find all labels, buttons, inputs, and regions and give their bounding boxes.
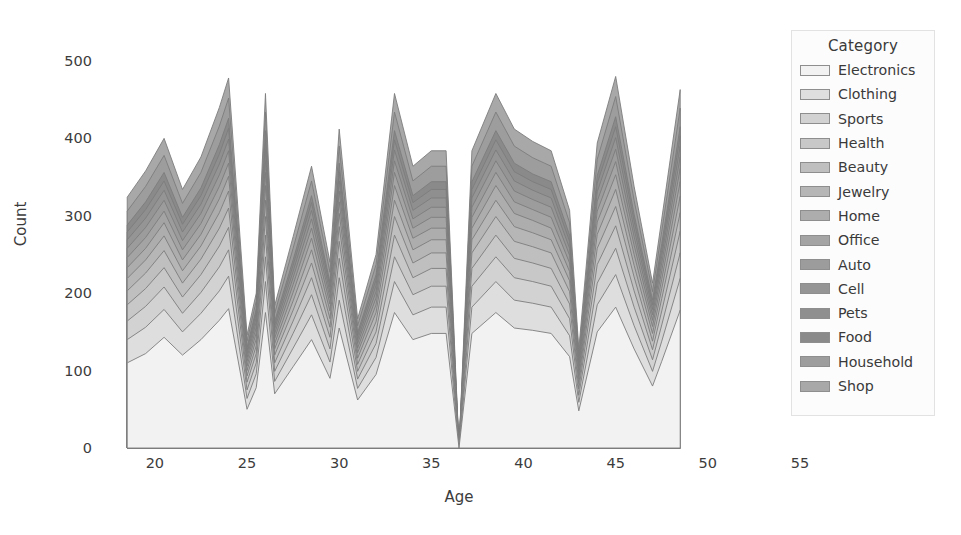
legend-item[interactable]: Shop — [800, 374, 926, 398]
legend-swatch — [800, 210, 830, 221]
x-tick-label: 25 — [238, 455, 256, 471]
legend-item[interactable]: Beauty — [800, 155, 926, 179]
legend-item-label: Beauty — [838, 159, 888, 175]
x-axis-label-text: Age — [444, 488, 473, 506]
legend-swatch — [800, 186, 830, 197]
legend-item[interactable]: Clothing — [800, 82, 926, 106]
legend-item-label: Sports — [838, 111, 883, 127]
legend-item-label: Auto — [838, 257, 871, 273]
x-axis-tick-labels: 2025303540455055 — [0, 455, 961, 481]
legend: Category ElectronicsClothingSportsHealth… — [791, 30, 935, 416]
x-axis-label: Age — [118, 488, 800, 506]
legend-item-label: Electronics — [838, 62, 915, 78]
legend-swatch — [800, 356, 830, 367]
legend-item-label: Health — [838, 135, 885, 151]
legend-item-label: Office — [838, 232, 879, 248]
x-tick-label: 35 — [422, 455, 440, 471]
legend-item[interactable]: Auto — [800, 252, 926, 276]
legend-swatch — [800, 89, 830, 100]
legend-item-label: Shop — [838, 378, 874, 394]
x-tick-label: 50 — [699, 455, 717, 471]
legend-item[interactable]: Electronics — [800, 58, 926, 82]
legend-item[interactable]: Health — [800, 131, 926, 155]
legend-swatch — [800, 65, 830, 76]
legend-item-label: Food — [838, 329, 872, 345]
legend-item[interactable]: Jewelry — [800, 179, 926, 203]
legend-item[interactable]: Cell — [800, 277, 926, 301]
legend-item-label: Cell — [838, 281, 865, 297]
legend-swatch — [800, 332, 830, 343]
legend-item[interactable]: Household — [800, 350, 926, 374]
legend-items: ElectronicsClothingSportsHealthBeautyJew… — [800, 58, 926, 398]
legend-swatch — [800, 138, 830, 149]
legend-item-label: Home — [838, 208, 880, 224]
legend-item[interactable]: Home — [800, 204, 926, 228]
stacked-area-chart: Count 0100200300400500 2025303540455055 … — [0, 0, 961, 535]
legend-item-label: Jewelry — [838, 184, 889, 200]
x-tick-label: 45 — [606, 455, 624, 471]
legend-swatch — [800, 162, 830, 173]
legend-item[interactable]: Food — [800, 325, 926, 349]
legend-swatch — [800, 259, 830, 270]
legend-swatch — [800, 283, 830, 294]
legend-swatch — [800, 113, 830, 124]
legend-item-label: Clothing — [838, 86, 897, 102]
x-tick-label: 20 — [146, 455, 164, 471]
legend-item-label: Household — [838, 354, 913, 370]
legend-item-label: Pets — [838, 305, 868, 321]
legend-swatch — [800, 381, 830, 392]
legend-swatch — [800, 235, 830, 246]
legend-swatch — [800, 308, 830, 319]
x-tick-label: 55 — [791, 455, 809, 471]
legend-item[interactable]: Sports — [800, 107, 926, 131]
legend-item[interactable]: Office — [800, 228, 926, 252]
x-tick-label: 30 — [330, 455, 348, 471]
legend-item[interactable]: Pets — [800, 301, 926, 325]
x-tick-label: 40 — [514, 455, 532, 471]
legend-title: Category — [800, 37, 926, 55]
